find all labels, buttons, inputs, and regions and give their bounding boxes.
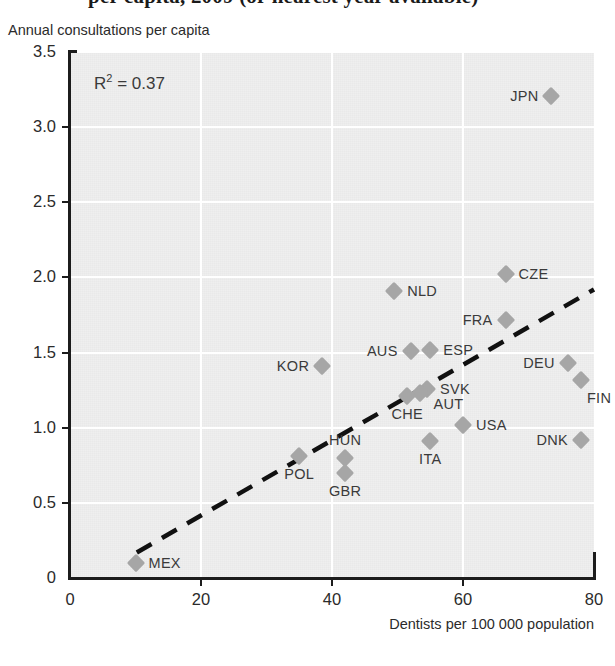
x-axis-tick-label: 60: [433, 590, 493, 609]
y-axis-tick-label: 2.0: [8, 267, 56, 286]
y-axis-tick-label: 0.5: [8, 493, 56, 512]
data-point-label: HUN: [323, 432, 367, 448]
data-point-label: FIN: [587, 390, 611, 406]
data-point-label: ITA: [408, 451, 452, 467]
y-axis-tick-label: 1.0: [8, 418, 56, 437]
x-axis-tick: [331, 579, 333, 586]
x-axis-tick-label: 0: [40, 590, 100, 609]
x-axis-tick-label: 80: [564, 590, 615, 609]
x-axis-tick: [462, 579, 464, 586]
chart-title: per capita, 2009 (or nearest year availa…: [88, 0, 478, 9]
data-point-label: AUS: [367, 343, 398, 359]
chart-title-strip: per capita, 2009 (or nearest year availa…: [0, 0, 604, 14]
x-axis-tick-label: 20: [171, 590, 231, 609]
y-axis-tick-label: 3.0: [8, 117, 56, 136]
data-point-label: NLD: [407, 283, 437, 299]
data-point-label: SVK: [440, 381, 470, 397]
y-axis-tick: [62, 352, 69, 354]
data-point-label: GBR: [323, 483, 367, 499]
y-axis-tick: [62, 126, 69, 128]
x-axis-caption: Dentists per 100 000 population: [0, 616, 594, 632]
plot-area: R2 = 0.37 JPNCZENLDFRAAUSESPKORDEUFINSVK…: [70, 52, 594, 578]
trendline: [70, 52, 594, 578]
data-point-label: DNK: [536, 432, 568, 448]
y-axis-tick: [62, 276, 69, 278]
x-axis-tick-label: 40: [302, 590, 362, 609]
data-point-label: ESP: [443, 342, 473, 358]
y-axis-tick-label: 3.5: [8, 42, 56, 61]
data-point-label: JPN: [510, 88, 538, 104]
y-axis-tick-label: 0: [8, 568, 56, 587]
trendline-segment: [137, 289, 594, 552]
data-point-label: DEU: [523, 355, 555, 371]
y-axis-tick-label: 1.5: [8, 343, 56, 362]
y-axis-tick: [62, 502, 69, 504]
y-axis-caption: Annual consultations per capita: [8, 22, 210, 38]
y-axis-tick: [62, 201, 69, 203]
y-axis-tick-label: 2.5: [8, 192, 56, 211]
y-axis-tick: [62, 427, 69, 429]
x-axis-right-cap: [593, 552, 596, 580]
data-point-label: FRA: [463, 312, 493, 328]
data-point-label: KOR: [277, 358, 309, 374]
data-point-label: USA: [476, 417, 507, 433]
y-axis-top-cap: [68, 50, 77, 53]
data-point-label: AUT: [433, 396, 463, 412]
y-axis-line: [68, 50, 71, 580]
x-axis-tick: [200, 579, 202, 586]
data-point-label: CZE: [519, 266, 549, 282]
data-point-label: MEX: [149, 555, 181, 571]
data-point-label: POL: [277, 466, 321, 482]
data-point-label: CHE: [385, 406, 429, 422]
